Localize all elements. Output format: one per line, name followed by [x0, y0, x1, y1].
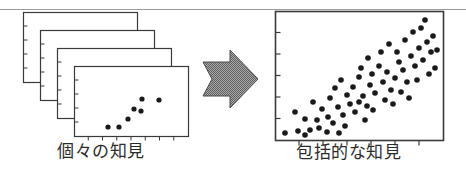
study-card [75, 67, 189, 137]
scatter-point [367, 82, 373, 88]
scatter-point [400, 67, 406, 73]
scatter-point [380, 79, 386, 85]
pooled-scatter [276, 12, 444, 146]
scatter-point [282, 130, 288, 136]
scatter-point [422, 17, 428, 23]
scatter-point [404, 79, 410, 85]
scatter-point [325, 114, 331, 120]
caption-comprehensive-findings: 包括的な知見 [296, 144, 401, 161]
scatter-point [327, 95, 333, 101]
scatter-point [302, 116, 308, 122]
scatter-point [350, 84, 356, 90]
scatter-point [384, 69, 390, 75]
scatter-point [332, 85, 338, 91]
scatter-point [424, 39, 430, 45]
scatter-point [347, 101, 353, 107]
scatter-point [358, 65, 364, 71]
scatter-point [295, 128, 301, 134]
scatter-point [370, 107, 376, 113]
scatter-point [394, 49, 400, 55]
scatter-point [116, 124, 121, 129]
scatter-point [335, 104, 341, 110]
scatter-point [139, 96, 144, 101]
caption-individual-findings: 個々の知見 [57, 143, 145, 160]
scatter-point [392, 75, 398, 81]
scatter-point [402, 37, 408, 43]
scatter-point [310, 99, 316, 105]
scatter-point [352, 109, 358, 115]
scatter-point [406, 95, 412, 101]
scatter-point [428, 49, 434, 55]
scatter-point [356, 74, 362, 80]
scatter-point [307, 127, 313, 133]
scatter-point [360, 93, 366, 99]
scatter-point [340, 112, 346, 118]
scatter-point [398, 89, 404, 95]
scatter-point [434, 47, 440, 53]
scatter-point [420, 57, 426, 63]
scatter-point [356, 99, 362, 105]
scatter-point [138, 108, 143, 113]
scatter-point [316, 125, 322, 131]
scatter-point [324, 129, 330, 135]
scatter-point [376, 63, 382, 69]
scatter-point [330, 120, 336, 126]
scatter-point [382, 97, 388, 103]
scatter-point [156, 97, 161, 102]
scatter-point [430, 33, 436, 39]
scatter-point [372, 90, 378, 96]
scatter-point [125, 116, 130, 121]
scatter-point [369, 71, 375, 77]
scatter-point [338, 77, 344, 83]
scatter-point [408, 53, 414, 59]
scatter-point [416, 45, 422, 51]
scatter-point [344, 92, 350, 98]
scatter-point [410, 29, 416, 35]
scatter-point [314, 117, 320, 123]
scatter-point [390, 101, 396, 107]
scatter-point [365, 55, 371, 61]
scatter-point [378, 49, 384, 55]
scatter-point [412, 63, 418, 69]
scatter-point [302, 132, 308, 138]
scatter-point [388, 87, 394, 93]
scatter-point [362, 117, 368, 123]
scatter-point [414, 77, 420, 83]
scatter-point [364, 103, 370, 109]
scatter-point [292, 109, 298, 115]
scatter-point [386, 41, 392, 47]
scatter-point [336, 130, 342, 136]
scatter-point [131, 106, 136, 111]
scatter-point [418, 25, 424, 31]
scatter-point [342, 123, 348, 129]
scatter-point [105, 124, 110, 129]
scatter-point [432, 65, 438, 71]
scatter-point [319, 106, 325, 112]
scatter-point [426, 71, 432, 77]
scatter-point [396, 59, 402, 65]
